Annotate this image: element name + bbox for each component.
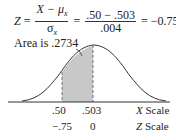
x-scale-label: X Scale [136, 104, 169, 116]
normal-curve [22, 45, 166, 101]
x-tick-050: .50 [52, 104, 66, 116]
normal-curve-plot [0, 0, 176, 140]
x-tick-0503: .503 [82, 104, 101, 116]
z-tick-neg075: −.75 [52, 120, 72, 132]
z-tick-0: 0 [90, 120, 96, 132]
shaded-area [62, 46, 93, 102]
z-scale-label: Z Scale [136, 120, 169, 132]
